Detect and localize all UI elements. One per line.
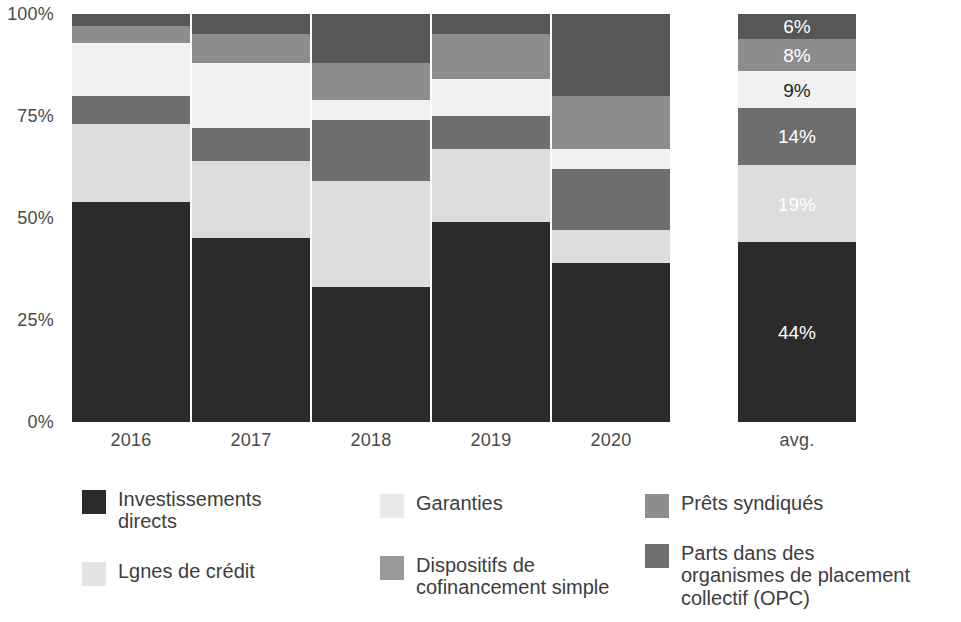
bar-segment[interactable] [312, 287, 430, 422]
bar-segment[interactable] [552, 149, 670, 169]
bar-segment[interactable] [72, 96, 190, 125]
legend-color-swatch-icon [645, 494, 669, 518]
chart-legend: Investissements directsGarantiesPrêts sy… [0, 480, 961, 622]
segment-value-label: 44% [738, 323, 856, 342]
bar-segment[interactable] [432, 116, 550, 149]
legend-color-swatch-icon [380, 494, 404, 518]
bar-segment[interactable] [312, 181, 430, 287]
bar-segment[interactable] [312, 120, 430, 181]
x-axis-tick-label: 2016 [111, 430, 152, 451]
bar-segment[interactable] [192, 128, 310, 161]
legend-item-label: Lgnes de crédit [118, 560, 255, 582]
plot-area: 100%75%50%25%0% 2016201720182019202044%1… [0, 0, 961, 465]
legend-item-label: Investissements directs [118, 488, 261, 533]
bar-segment[interactable] [432, 149, 550, 222]
legend-item[interactable]: Parts dans des organismes de placement c… [645, 542, 910, 609]
bar-segment[interactable] [72, 14, 190, 26]
bar-segment[interactable]: 9% [738, 71, 856, 108]
bar-segment[interactable] [72, 43, 190, 96]
bar-segment[interactable] [192, 14, 310, 34]
x-axis-tick-label: 2017 [231, 430, 272, 451]
bar-segment[interactable] [432, 222, 550, 422]
bar-segment[interactable] [432, 34, 550, 79]
segment-value-label: 8% [738, 45, 856, 64]
bar-stack [192, 14, 310, 422]
bar-stack [432, 14, 550, 422]
bar-segment[interactable] [552, 169, 670, 230]
bars-layer: 2016201720182019202044%19%14%9%8%6%avg. [0, 0, 961, 465]
bar-group-2016[interactable] [72, 14, 190, 422]
bar-segment[interactable] [312, 14, 430, 63]
bar-segment[interactable] [552, 230, 670, 263]
legend-item[interactable]: Investissements directs [82, 488, 261, 533]
legend-color-swatch-icon [645, 544, 669, 568]
bar-segment[interactable] [312, 63, 430, 100]
segment-value-label: 19% [738, 194, 856, 213]
legend-item[interactable]: Dispositifs de cofinancement simple [380, 554, 609, 599]
legend-item-label: Dispositifs de cofinancement simple [416, 554, 609, 599]
bar-group-2018[interactable] [312, 14, 430, 422]
x-axis-tick-label: 2018 [351, 430, 392, 451]
bar-segment[interactable] [72, 202, 190, 422]
legend-color-swatch-icon [380, 556, 404, 580]
x-axis-tick-label: avg. [780, 430, 815, 451]
bar-segment[interactable] [72, 124, 190, 202]
segment-value-label: 6% [738, 17, 856, 36]
bar-segment[interactable] [432, 14, 550, 34]
bar-segment[interactable] [72, 26, 190, 42]
bar-segment[interactable] [192, 63, 310, 128]
bar-stack [312, 14, 430, 422]
bar-segment[interactable]: 44% [738, 242, 856, 422]
legend-item[interactable]: Garanties [380, 492, 503, 518]
stacked-bar-chart: 100%75%50%25%0% 2016201720182019202044%1… [0, 0, 961, 622]
bar-segment[interactable] [552, 96, 670, 149]
bar-group-2019[interactable] [432, 14, 550, 422]
bar-segment[interactable] [312, 100, 430, 120]
legend-color-swatch-icon [82, 490, 106, 514]
bar-stack [72, 14, 190, 422]
bar-segment[interactable] [192, 34, 310, 63]
bar-segment[interactable]: 6% [738, 14, 856, 38]
legend-color-swatch-icon [82, 562, 106, 586]
legend-item-label: Parts dans des organismes de placement c… [681, 542, 910, 609]
bar-segment[interactable] [552, 263, 670, 422]
bar-segment[interactable]: 19% [738, 165, 856, 243]
bar-group-2017[interactable] [192, 14, 310, 422]
legend-item-label: Garanties [416, 492, 503, 514]
bar-segment[interactable] [432, 79, 550, 116]
bar-segment[interactable]: 8% [738, 39, 856, 72]
bar-stack [552, 14, 670, 422]
bar-segment[interactable]: 14% [738, 108, 856, 165]
legend-item-label: Prêts syndiqués [681, 492, 823, 514]
bar-segment[interactable] [192, 161, 310, 239]
x-axis-tick-label: 2020 [591, 430, 632, 451]
segment-value-label: 9% [738, 80, 856, 99]
legend-item[interactable]: Lgnes de crédit [82, 560, 255, 586]
bar-group-avg[interactable]: 44%19%14%9%8%6% [738, 14, 856, 422]
bar-group-2020[interactable] [552, 14, 670, 422]
bar-segment[interactable] [552, 14, 670, 96]
legend-item[interactable]: Prêts syndiqués [645, 492, 823, 518]
bar-segment[interactable] [192, 238, 310, 422]
x-axis-tick-label: 2019 [471, 430, 512, 451]
segment-value-label: 14% [738, 127, 856, 146]
bar-stack: 44%19%14%9%8%6% [738, 14, 856, 422]
